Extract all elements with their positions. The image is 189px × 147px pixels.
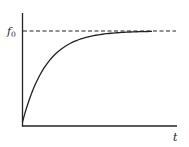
y-asymptote-subscript: 0	[11, 30, 16, 39]
y-asymptote-label: f0	[6, 25, 16, 39]
exponential-saturation-chart: f0 t	[0, 0, 189, 147]
data-curve	[23, 31, 153, 122]
x-axis-label: t	[173, 131, 178, 144]
